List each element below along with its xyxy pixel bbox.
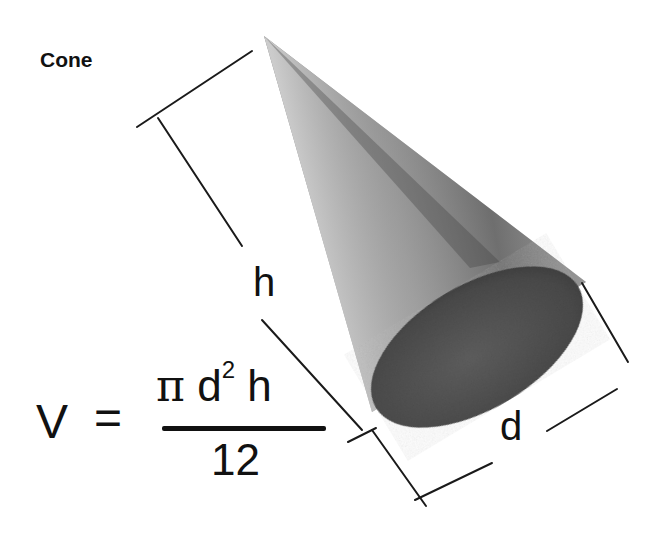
formula-numerator: π d2 h (156, 364, 272, 408)
diagram-title: Cone (40, 49, 93, 70)
formula-lhs: V (36, 398, 68, 446)
numerator-exponent: 2 (222, 356, 235, 383)
numerator-d: d (197, 361, 221, 410)
formula-equals: = (94, 394, 122, 442)
height-label: h (253, 262, 275, 302)
numerator-h: h (247, 361, 271, 410)
pi-symbol: π (156, 360, 185, 411)
cone-diagram: Cone h d V = π d2 h 12 (0, 0, 660, 542)
diameter-label: d (500, 406, 522, 446)
formula-denominator: 12 (211, 438, 260, 482)
fraction-bar (162, 426, 326, 431)
volume-formula: V = π d2 h 12 (36, 364, 336, 484)
